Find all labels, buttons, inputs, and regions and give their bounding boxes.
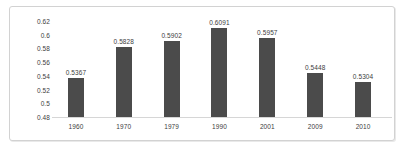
bar[interactable]	[116, 47, 132, 117]
y-axis-tick-label: 0.54	[37, 72, 50, 79]
x-axis-category-label: 2001	[243, 123, 291, 130]
x-axis-category-label: 2009	[291, 123, 339, 130]
y-axis-tick-label: 0.5	[41, 100, 50, 107]
bar-value-label: 0.5304	[353, 73, 373, 80]
bar[interactable]	[259, 38, 275, 117]
y-axis: 0.480.50.520.540.560.580.60.62	[20, 21, 50, 117]
bar-group: 0.5304	[339, 21, 387, 117]
plot-area: 0.53670.58280.59020.60910.59570.54480.53…	[52, 21, 387, 117]
x-axis-category-label: 1960	[52, 123, 100, 130]
bar-value-label: 0.5367	[66, 69, 86, 76]
y-axis-tick-label: 0.52	[37, 86, 50, 93]
bar[interactable]	[307, 73, 323, 117]
y-axis-tick-label: 0.58	[37, 45, 50, 52]
y-axis-tick-label: 0.48	[37, 114, 50, 121]
bar[interactable]	[355, 82, 371, 117]
y-axis-tick-label: 0.6	[41, 31, 50, 38]
bar-value-label: 0.6091	[209, 19, 229, 26]
category-axis-line	[52, 117, 392, 118]
x-axis-category-label: 1979	[148, 123, 196, 130]
bar-group: 0.5367	[52, 21, 100, 117]
chart-frame: 0.480.50.520.540.560.580.60.62 0.53670.5…	[9, 6, 395, 141]
y-axis-tick-label: 0.56	[37, 59, 50, 66]
x-axis-category-label: 2010	[339, 123, 387, 130]
bar-value-label: 0.5448	[305, 64, 325, 71]
bar-value-label: 0.5902	[161, 32, 181, 39]
x-axis: 1960197019791990200120092010	[52, 120, 387, 138]
bar-group: 0.5902	[148, 21, 196, 117]
x-axis-category-label: 1970	[100, 123, 148, 130]
bar[interactable]	[164, 41, 180, 117]
bar-group: 0.5828	[100, 21, 148, 117]
bar-group: 0.6091	[196, 21, 244, 117]
bar-group: 0.5448	[291, 21, 339, 117]
bar[interactable]	[68, 78, 84, 117]
y-axis-tick-label: 0.62	[37, 18, 50, 25]
bar-group: 0.5957	[243, 21, 291, 117]
x-axis-category-label: 1990	[196, 123, 244, 130]
bar-value-label: 0.5828	[114, 38, 134, 45]
bar[interactable]	[211, 28, 227, 117]
bar-value-label: 0.5957	[257, 29, 277, 36]
